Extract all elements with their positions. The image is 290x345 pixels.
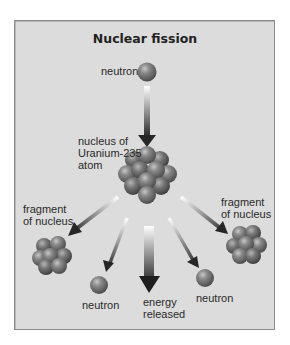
- incoming-neutron-sphere: [138, 63, 157, 82]
- label-neutron-right: neutron: [196, 292, 233, 305]
- fission-illustration: [0, 0, 290, 345]
- label-neutron-left: neutron: [82, 299, 119, 312]
- label-energy-line2: released: [143, 308, 185, 321]
- label-fragment-right-line2: of nucleus: [221, 208, 271, 221]
- right-output-neutron: [196, 269, 214, 287]
- label-fragment-left-line1: fragment: [23, 203, 66, 216]
- label-nucleus-line1: nucleus of: [78, 135, 128, 148]
- left-neutron-arrow: [103, 218, 127, 272]
- energy-arrow: [139, 226, 160, 293]
- label-fragment-right-line1: fragment: [221, 196, 264, 209]
- label-energy-line1: energy: [143, 296, 177, 309]
- incoming-neutron-arrow: [138, 86, 156, 147]
- label-nucleus-line2: Uranium-235: [78, 147, 142, 160]
- label-nucleus-line3: atom: [78, 159, 102, 172]
- left-fragment-arrow: [68, 197, 118, 236]
- left-fragment-cluster: [32, 236, 72, 275]
- right-neutron-arrow: [169, 218, 199, 268]
- left-output-neutron: [90, 276, 108, 294]
- right-fragment-cluster: [226, 225, 267, 264]
- label-fragment-left-line2: of nucleus: [23, 215, 73, 228]
- label-incoming-neutron: neutron: [101, 65, 138, 78]
